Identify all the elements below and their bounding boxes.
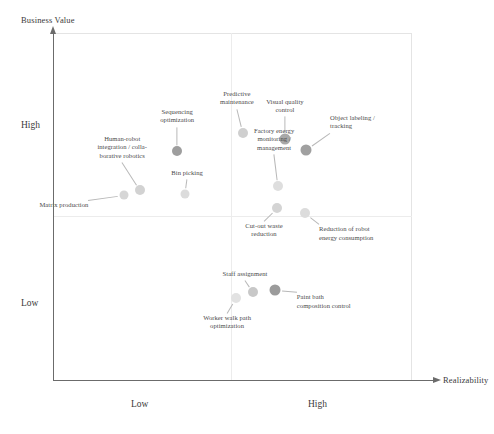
data-point [301, 144, 312, 155]
data-point [120, 190, 129, 199]
label-leader-line [264, 213, 273, 222]
x-tick-high: High [308, 399, 327, 409]
data-point-label: Sequencing optimization [160, 108, 194, 125]
y-tick-high: High [21, 120, 40, 130]
data-point [248, 287, 258, 297]
data-point [273, 181, 283, 191]
label-leader-line [88, 196, 118, 201]
data-point [231, 293, 241, 303]
data-point-label: Cut-out waste reduction [245, 222, 282, 239]
label-leader-line [177, 127, 178, 145]
y-axis-arrow-icon [50, 26, 56, 34]
data-point-label: Factory energy monitoring / management [254, 127, 294, 152]
x-tick-low: Low [131, 399, 148, 409]
x-axis-line [53, 380, 436, 381]
quadrant-divider-horizontal [53, 216, 412, 217]
data-point-label: Paint bath composition control [297, 293, 351, 310]
plot-area: Matrix productionHuman-robot integration… [53, 33, 412, 381]
label-leader-line [312, 133, 331, 147]
plot-frame-top [53, 33, 412, 34]
data-point [238, 128, 248, 138]
data-point-label: Predictive maintenance [220, 90, 254, 107]
data-point [269, 285, 280, 296]
label-leader-line [237, 109, 242, 127]
data-point-label: Object labeling / tracking [330, 114, 375, 131]
y-axis-line [53, 33, 54, 381]
label-leader-line [186, 179, 188, 188]
label-leader-line [122, 162, 137, 185]
data-point-label: Visual quality control [266, 98, 303, 115]
data-point-label: Human-robot integration / colla- borativ… [97, 135, 147, 160]
data-point [181, 190, 190, 199]
data-point [172, 146, 182, 156]
x-axis-arrow-icon [433, 377, 441, 383]
x-axis-title: Realizability [443, 375, 488, 385]
label-leader-line [310, 217, 319, 225]
data-point-label: Worker walk path optimization [203, 314, 251, 331]
data-point-label: Matrix production [39, 201, 88, 209]
label-leader-line [282, 291, 297, 293]
label-leader-line [245, 280, 250, 287]
data-point [135, 185, 145, 195]
y-axis-title: Business Value [21, 15, 75, 25]
data-point-label: Bin picking [171, 169, 203, 177]
y-tick-low: Low [21, 298, 38, 308]
label-leader-line [274, 154, 278, 180]
data-point [272, 203, 282, 213]
label-leader-line [227, 304, 233, 314]
plot-frame-right [411, 33, 412, 381]
data-point-label: Reduction of robot energy consumption [319, 225, 373, 242]
data-point-label: Staff assignment [223, 270, 268, 278]
data-point [300, 208, 310, 218]
quadrant-scatter-chart: Matrix productionHuman-robot integration… [0, 0, 494, 434]
